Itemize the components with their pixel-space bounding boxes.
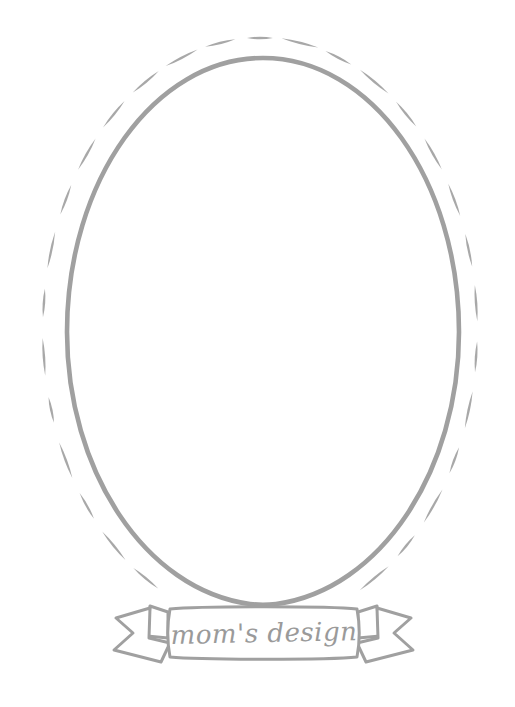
oval-dash-segment [448,447,460,474]
oval-dash-segment [474,342,479,373]
oval-dash-segment [132,70,160,94]
oval-dash-segment [464,233,473,266]
artwork-canvas: mom's design [0,0,515,707]
oval-dash-segment [423,138,443,170]
oval-dash-segment [247,37,273,40]
oval-dash-segment [447,183,461,216]
oval-dash-segment [46,232,56,269]
oval-dash-segment [42,289,46,318]
oval-dash-segment [205,38,236,48]
oval-dash-segment [41,338,46,376]
oval-frame-illustration [0,0,515,707]
oval-dash-segment [165,48,198,67]
oval-dash-segment [58,442,73,478]
oval-dash-segment [395,101,417,127]
inner-solid-oval [67,58,459,605]
oval-dash-segment [79,492,96,519]
oval-dash-segment [325,50,352,66]
oval-dash-segment [474,285,479,321]
frame-group [41,37,478,605]
oval-dash-segment [359,69,389,95]
oval-dash-segment [464,391,474,428]
oval-dash-segment [281,37,318,49]
oval-dash-segment [359,565,390,591]
oval-dash-segment [133,567,159,590]
oval-dash-segment [77,138,97,171]
oval-dash-segment [397,534,416,557]
oval-dash-segment [423,489,444,523]
banner-panel [168,607,360,660]
oval-dash-segment [59,185,72,215]
oval-dash-segment [102,100,125,128]
oval-dash-segment [47,397,55,423]
ribbon-banner [114,606,413,662]
oval-dash-segment [101,531,126,561]
